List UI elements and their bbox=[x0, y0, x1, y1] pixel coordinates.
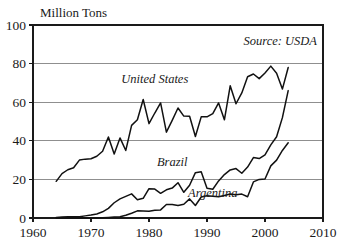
chart-page: 020406080100 196019701980199020002010 Un… bbox=[0, 0, 346, 251]
y-tick-label: 80 bbox=[13, 56, 27, 71]
y-tick-label: 40 bbox=[13, 133, 27, 148]
x-tick-label: 2000 bbox=[252, 225, 279, 240]
x-tick-label: 1980 bbox=[136, 225, 163, 240]
series-label-argentina: Argentina bbox=[187, 186, 238, 200]
x-tick-label: 2010 bbox=[310, 225, 337, 240]
y-tick-label: 0 bbox=[19, 211, 26, 226]
source-annotation: Source: USDA bbox=[244, 34, 318, 48]
x-tick-label: 1970 bbox=[78, 225, 105, 240]
series-label-united-states: United States bbox=[121, 72, 188, 86]
y-tick-label: 60 bbox=[13, 95, 27, 110]
y-tick-label: 20 bbox=[13, 172, 27, 187]
x-tick-label: 1990 bbox=[194, 225, 221, 240]
y-axis-title: Million Tons bbox=[40, 5, 107, 20]
y-tick-label: 100 bbox=[6, 18, 27, 33]
x-tick-label: 1960 bbox=[20, 225, 47, 240]
series-label-brazil: Brazil bbox=[157, 155, 188, 169]
soybean-production-line-chart: 020406080100 196019701980199020002010 Un… bbox=[0, 0, 346, 251]
